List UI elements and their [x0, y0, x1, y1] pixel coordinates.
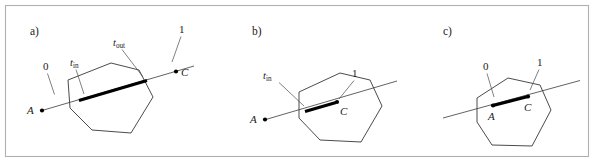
- panel-b-point-A: [263, 117, 267, 121]
- figure-frame: [6, 6, 589, 157]
- panel-a-label: a): [30, 25, 39, 38]
- panel-c-label-A: A: [487, 110, 495, 122]
- panel-a-point-A: [40, 108, 44, 112]
- panel-b-label-one: 1: [352, 67, 358, 79]
- panel-c-label: c): [443, 25, 452, 38]
- panel-a-label-zero: 0: [43, 60, 49, 72]
- panel-c-label-C: C: [524, 101, 532, 113]
- panel-a-label-A: A: [26, 104, 34, 116]
- panel-a-point-C: [174, 69, 178, 73]
- figure-root: a) A C 0 1 tin tout: [0, 0, 598, 168]
- panel-a-label-one: 1: [179, 23, 185, 35]
- geometry-figure: a) A C 0 1 tin tout: [0, 0, 598, 168]
- panel-b-label-A: A: [249, 113, 257, 125]
- panel-c-label-one: 1: [537, 56, 543, 68]
- panel-c-point-A: [491, 103, 495, 107]
- panel-b-label-C: C: [340, 105, 348, 117]
- panel-a-label-C: C: [181, 66, 189, 78]
- panel-b-point-C: [335, 100, 339, 104]
- panel-b-label: b): [252, 25, 262, 38]
- panel-c-label-zero: 0: [483, 60, 489, 72]
- panel-c-point-C: [526, 94, 530, 98]
